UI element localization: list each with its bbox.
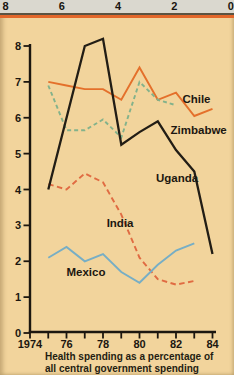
health-spending-chart: 01234567819747678808284ChileZimbabweIndi… [0, 0, 234, 375]
x-tick-label: 82 [170, 338, 182, 350]
country-label-india: India [107, 217, 134, 229]
y-tick-label: 6 [15, 112, 21, 124]
y-tick-label: 4 [15, 184, 22, 196]
caption-line-2: all central government spending [45, 363, 230, 375]
chart-caption: Health spending as a percentage of all c… [45, 351, 230, 374]
y-tick-label: 1 [15, 291, 21, 303]
y-tick-label: 2 [15, 255, 21, 267]
y-tick-label: 7 [15, 76, 21, 88]
x-tick-label: 78 [97, 338, 109, 350]
x-tick-label: 84 [206, 338, 219, 350]
country-label-mexico: Mexico [67, 266, 106, 278]
country-label-chile: Chile [182, 93, 210, 105]
x-tick-label: 76 [60, 338, 72, 350]
caption-line-1: Health spending as a percentage of [45, 351, 230, 363]
figure-frame: 86420 01234567819747678808284ChileZimbab… [0, 0, 234, 375]
x-tick-label: 80 [133, 338, 145, 350]
y-tick-label: 8 [15, 40, 21, 52]
y-tick-label: 3 [15, 219, 21, 231]
y-tick-label: 5 [15, 148, 21, 160]
country-label-uganda: Uganda [156, 172, 199, 184]
country-label-zimbabwe: Zimbabwe [171, 124, 227, 136]
x-tick-label: 1974 [18, 338, 43, 350]
